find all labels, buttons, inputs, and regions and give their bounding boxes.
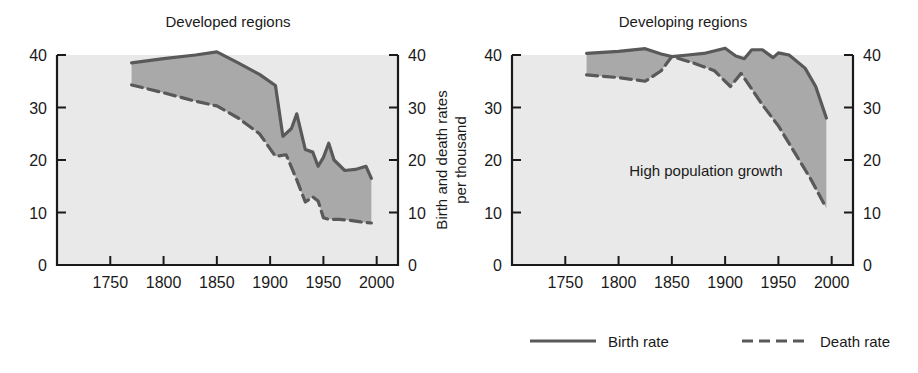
left-x-tick-label: 1950 — [306, 274, 342, 291]
left-x-tick-label: 1750 — [92, 274, 128, 291]
left-y-tick-label: 40 — [29, 47, 47, 64]
left-x-tick-label: 2000 — [359, 274, 395, 291]
right-y-right-tick-label: 30 — [863, 100, 881, 117]
population-transition-figure: Developed regions 010203040 010203040 17… — [0, 0, 918, 373]
legend-label-birth-rate: Birth rate — [608, 333, 669, 350]
left-y-right-tick-label: 0 — [408, 257, 417, 274]
right-panel-title: Developing regions — [619, 13, 747, 30]
left-y-tick-label: 0 — [38, 257, 47, 274]
right-y-tick-label: 20 — [484, 152, 502, 169]
right-x-tick-label: 1750 — [547, 274, 583, 291]
right-y-tick-label: 0 — [493, 257, 502, 274]
y-axis-label-line1: Birth and death rates — [433, 90, 450, 229]
right-y-right-tick-label: 20 — [863, 152, 881, 169]
right-y-tick-label: 30 — [484, 100, 502, 117]
right-y-tick-label: 40 — [484, 47, 502, 64]
left-x-tick-label: 1900 — [252, 274, 288, 291]
right-y-right-tick-label: 40 — [863, 47, 881, 64]
right-y-right-tick-label: 0 — [863, 257, 872, 274]
right-x-tick-label: 1800 — [601, 274, 637, 291]
left-x-tick-label: 1800 — [146, 274, 182, 291]
left-y-tick-label: 20 — [29, 152, 47, 169]
left-y-tick-label: 10 — [29, 205, 47, 222]
y-axis-label-line2: per thousand — [452, 116, 469, 204]
right-x-tick-label: 1950 — [761, 274, 797, 291]
right-x-tick-label: 1900 — [707, 274, 743, 291]
left-y-right-tick-label: 40 — [408, 47, 426, 64]
left-y-right-tick-label: 10 — [408, 205, 426, 222]
legend-label-death-rate: Death rate — [820, 333, 890, 350]
left-y-right-tick-label: 20 — [408, 152, 426, 169]
right-y-right-tick-label: 10 — [863, 205, 881, 222]
high-population-growth-annotation: High population growth — [629, 162, 782, 179]
left-x-tick-label: 1850 — [199, 274, 235, 291]
right-x-tick-label: 1850 — [654, 274, 690, 291]
right-y-tick-label: 10 — [484, 205, 502, 222]
chart-canvas: Developed regions 010203040 010203040 17… — [0, 0, 918, 373]
right-x-tick-label: 2000 — [814, 274, 850, 291]
left-y-tick-label: 30 — [29, 100, 47, 117]
left-panel-title: Developed regions — [165, 13, 290, 30]
left-y-right-tick-label: 30 — [408, 100, 426, 117]
